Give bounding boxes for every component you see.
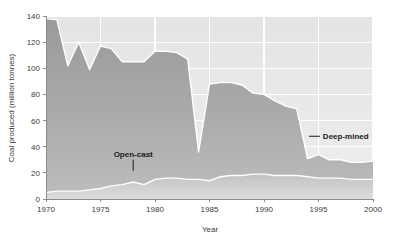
x-axis-title: Year — [202, 225, 219, 234]
y-axis-tick-labels: 020406080100120140 — [27, 12, 41, 204]
x-tick-label: 1995 — [310, 205, 328, 214]
coal-production-figure: 020406080100120140 197019751980198519901… — [0, 0, 394, 240]
coal-production-area-chart: 020406080100120140 197019751980198519901… — [0, 0, 394, 240]
x-tick-label: 2000 — [364, 205, 382, 214]
y-tick-label: 20 — [31, 169, 40, 178]
x-tick-label: 1980 — [146, 205, 164, 214]
y-tick-label: 60 — [31, 117, 40, 126]
x-tick-label: 1970 — [37, 205, 55, 214]
annotation-label-open-cast: Open-cast — [114, 150, 153, 159]
x-tick-label: 1985 — [201, 205, 219, 214]
y-tick-label: 100 — [27, 64, 41, 73]
y-tick-label: 120 — [27, 38, 41, 47]
y-tick-label: 40 — [31, 143, 40, 152]
y-tick-label: 0 — [36, 195, 41, 204]
y-tick-label: 80 — [31, 90, 40, 99]
y-tick-label: 140 — [27, 12, 41, 21]
x-tick-label: 1975 — [92, 205, 110, 214]
x-tick-label: 1990 — [255, 205, 273, 214]
x-axis-tick-labels: 1970197519801985199019952000 — [37, 205, 382, 214]
annotation-label-deep-mined: Deep-mined — [323, 132, 369, 141]
y-axis-title: Coal produced (million tonnes) — [7, 53, 16, 162]
